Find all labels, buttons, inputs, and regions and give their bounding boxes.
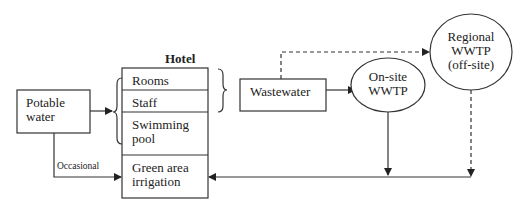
regional-wwtp-line1: Regional	[448, 29, 495, 44]
hotel-green-area-line2: irrigation	[132, 174, 181, 189]
hotel-swimming-pool-line2: pool	[132, 131, 156, 146]
potable-water-line1: Potable	[26, 95, 65, 110]
regional-wwtp-line2: WWTP	[451, 43, 491, 58]
hotel-staff: Staff	[132, 95, 158, 110]
hotel-title: Hotel	[165, 51, 196, 66]
hotel-green-area-line1: Green area	[132, 160, 189, 175]
right-brace	[218, 69, 227, 112]
left-brace	[113, 78, 122, 144]
hotel-rooms: Rooms	[132, 73, 169, 88]
hotel-swimming-pool-line1: Swimming	[132, 117, 190, 132]
onsite-wwtp-line2: WWTP	[368, 83, 408, 98]
dashed-arrow-head	[422, 48, 430, 56]
regional-wwtp-line3: (off-site)	[448, 57, 494, 72]
occasional-label: Occasional	[57, 161, 100, 171]
onsite-wwtp-line1: On-site	[369, 69, 408, 84]
hotel-water-flow-diagram: Hotel Rooms Staff Swimming pool Green ar…	[0, 0, 526, 209]
dashed-down-arrow-head	[467, 169, 475, 177]
wastewater-label: Wastewater	[250, 84, 311, 99]
potable-water-line2: water	[26, 109, 56, 124]
